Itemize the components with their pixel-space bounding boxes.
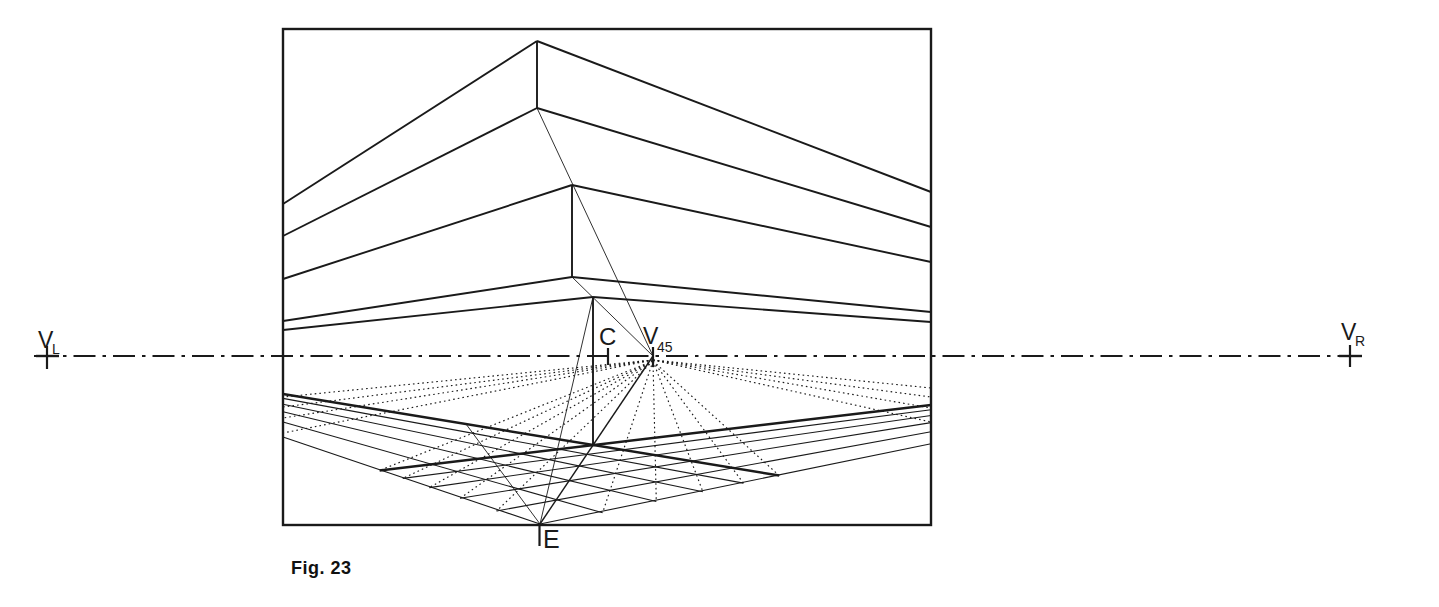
figure-caption: Fig. 23 <box>291 558 352 579</box>
dotted-45-ray <box>653 361 656 502</box>
figure-page: VLVRCV45E Fig. 23 <box>0 0 1439 607</box>
label-eye-e: E <box>543 525 560 553</box>
building-edge <box>572 277 931 312</box>
ground-grid-line <box>540 444 931 524</box>
dotted-45-ray <box>283 360 653 418</box>
picture-plane-frame <box>283 29 931 525</box>
dotted-45-ray <box>653 360 931 422</box>
ground-grid-line <box>497 432 931 511</box>
building-edge <box>593 297 931 322</box>
construction-line <box>537 108 653 356</box>
building-base-edge <box>283 394 779 476</box>
label-v-right: VR <box>1341 319 1365 349</box>
ground-grid-line <box>403 410 931 479</box>
building-edge <box>283 185 572 279</box>
building-edge <box>283 41 537 204</box>
dotted-45-ray <box>653 360 931 408</box>
building-edge <box>537 41 931 192</box>
ground-grid-line <box>283 422 603 513</box>
dotted-45-ray <box>283 360 653 397</box>
building-edge <box>572 185 931 262</box>
dotted-45-ray <box>497 361 653 511</box>
perspective-construction-diagram: VLVRCV45E <box>0 0 1439 607</box>
label-center-c: C <box>599 323 616 350</box>
dotted-45-ray <box>283 360 653 433</box>
dotted-45-ray <box>283 360 653 407</box>
dotted-45-ray <box>653 361 703 492</box>
building-edge <box>537 108 931 227</box>
building-edge <box>283 108 537 236</box>
label-v-left: VL <box>38 327 60 357</box>
